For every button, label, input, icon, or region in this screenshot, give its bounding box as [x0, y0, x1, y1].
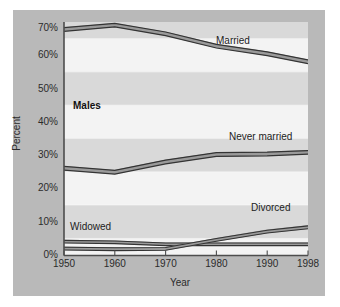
ytick-label-60: 60%: [22, 49, 58, 60]
xtick-label-1950: 1950: [44, 258, 84, 269]
series-label-divorced: Divorced: [251, 202, 290, 213]
xtick-label-1990: 1990: [247, 258, 287, 269]
series-label-never-married: Never married: [229, 131, 292, 142]
x-axis-title: Year: [150, 277, 210, 288]
xtick-label-1980: 1980: [196, 258, 236, 269]
series-label-widowed: Widowed: [70, 221, 111, 232]
ytick-label-50: 50%: [22, 83, 58, 94]
group-label-males: Males: [73, 100, 101, 111]
xtick-label-1960: 1960: [95, 258, 135, 269]
xtick-label-1998: 1998: [288, 258, 328, 269]
series-label-married: Married: [216, 35, 250, 46]
ytick-label-40: 40%: [22, 116, 58, 127]
ytick-label-30: 30%: [22, 149, 58, 160]
ytick-label-70: 70%: [22, 22, 58, 33]
chart-figure: 0% 10% 20% 30% 40% 50% 60% 70% 1950 1960…: [0, 0, 340, 307]
ytick-label-20: 20%: [22, 182, 58, 193]
xtick-label-1970: 1970: [146, 258, 186, 269]
y-axis-title: Percent: [11, 104, 22, 164]
ytick-label-10: 10%: [22, 216, 58, 227]
